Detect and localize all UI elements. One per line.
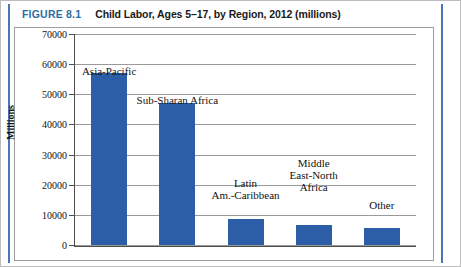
y-axis-tick-label: 20000 — [17, 179, 67, 190]
plot-area: Asia-PacificSub-Sharan AfricaLatin Am.-C… — [75, 34, 416, 245]
y-axis-tick-label: 30000 — [17, 149, 67, 160]
bar-category-label: Other — [369, 199, 394, 211]
figure-caption: FIGURE 8.1 Child Labor, Ages 5–17, by Re… — [22, 5, 432, 23]
y-axis-tick — [69, 124, 75, 125]
bar-category-label: Latin Am.-Caribbean — [211, 177, 279, 201]
figure-title: Child Labor, Ages 5–17, by Region, 2012 … — [95, 8, 341, 20]
figure-number: FIGURE 8.1 — [22, 8, 81, 20]
y-axis-tick-label: 50000 — [17, 89, 67, 100]
y-axis-tick — [69, 185, 75, 186]
y-axis-tick-label: 40000 — [17, 119, 67, 130]
y-axis-tick-label: 70000 — [17, 29, 67, 40]
y-axis-tick — [69, 94, 75, 95]
bar-category-label: Middle East-North Africa — [290, 157, 338, 193]
bar-category-label: Sub-Sharan Africa — [137, 94, 219, 106]
bar — [364, 228, 400, 245]
right-blue-rule — [441, 4, 443, 263]
bar — [296, 225, 332, 245]
bar — [159, 103, 195, 245]
gridline — [75, 245, 416, 246]
y-axis-tick — [69, 155, 75, 156]
y-axis-tick — [69, 215, 75, 216]
gridline — [75, 34, 416, 35]
bar-category-label: Asia-Pacific — [82, 65, 136, 77]
y-axis-tick-label: 60000 — [17, 59, 67, 70]
y-axis-tick-label: 10000 — [17, 209, 67, 220]
y-axis-tick-label: 0 — [17, 240, 67, 251]
bar — [228, 219, 264, 245]
y-axis-tick — [69, 34, 75, 35]
y-axis-tick-labels: 700006000050000400003000020000100000 — [15, 28, 67, 260]
figure-container: FIGURE 8.1 Child Labor, Ages 5–17, by Re… — [0, 0, 461, 267]
bar — [91, 73, 127, 245]
y-axis-tick — [69, 64, 75, 65]
y-axis-tick — [69, 245, 75, 246]
chart-plot-frame: Millions 7000060000500004000030000200001… — [14, 27, 434, 261]
